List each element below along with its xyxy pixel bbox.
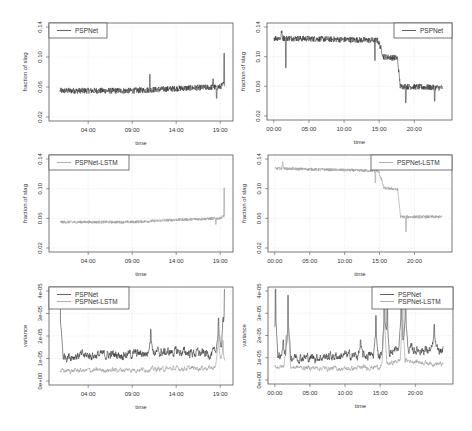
legend: PSPNetPSPNet-LSTM: [372, 287, 453, 309]
y-tick-label: 0.14: [256, 153, 262, 165]
legend: PSPNetPSPNet-LSTM: [49, 287, 129, 309]
y-tick-label: 0.02: [255, 110, 261, 122]
x-tick-label: 09:00: [125, 391, 141, 397]
y-tick-label: 3e-05: [37, 305, 43, 321]
y-axis-label: variance: [22, 324, 28, 347]
y-tick-label: 0.02: [37, 242, 43, 254]
x-tick-label: 00:00: [266, 126, 282, 132]
legend-label: PSPNet-LSTM: [75, 298, 118, 305]
legend-label: PSPNet-LSTM: [75, 159, 118, 166]
y-axis-label: fraction of slag: [241, 184, 247, 223]
y-tick-label: 2e-05: [37, 328, 43, 344]
x-tick-label: 10:00: [337, 126, 353, 132]
x-tick-label: 15:00: [373, 390, 389, 396]
x-tick-label: 05:00: [302, 258, 318, 264]
legend: PSPNet: [49, 23, 107, 38]
y-tick-label: 0.10: [256, 182, 262, 194]
x-tick-label: 05:00: [302, 390, 318, 396]
y-tick-label: 4e-05: [37, 283, 43, 299]
y-tick-label: 0e+00: [37, 372, 43, 390]
legend-label: PSPNet: [420, 27, 443, 34]
x-tick-label: 05:00: [301, 126, 317, 132]
legend: PSPNet-LSTM: [371, 155, 452, 170]
y-tick-label: 0e+00: [256, 371, 262, 389]
figure: 04:0009:0014:0019:000.020.060.100.14time…: [0, 0, 472, 431]
legend-label: PSPNet-LSTM: [397, 159, 440, 166]
panel-p4: 00:0005:0010:0015:0020:000.020.060.100.1…: [241, 153, 452, 277]
x-tick-label: 15:00: [372, 126, 388, 132]
x-tick-label: 19:00: [213, 258, 229, 264]
legend-label: PSPNet: [75, 291, 98, 298]
x-tick-label: 20:00: [408, 390, 424, 396]
series-line-pspnet: [60, 53, 225, 98]
x-tick-label: 09:00: [125, 258, 141, 264]
y-tick-label: 3e-05: [256, 305, 262, 321]
y-tick-label: 0.06: [256, 212, 262, 224]
y-tick-label: 2e-05: [256, 327, 262, 343]
x-tick-label: 20:00: [407, 126, 423, 132]
x-tick-label: 00:00: [267, 258, 283, 264]
x-tick-label: 10:00: [338, 390, 354, 396]
legend-label: PSPNet: [398, 291, 421, 298]
series-line-pspnet-lstm: [60, 188, 225, 224]
legend-label: PSPNet-LSTM: [398, 298, 441, 305]
x-tick-label: 15:00: [372, 258, 388, 264]
panel-p3: 04:0009:0014:0019:000.020.060.100.14time…: [22, 153, 233, 277]
panel-p1: 04:0009:0014:0019:000.020.060.100.14time…: [22, 21, 233, 146]
y-tick-label: 0.06: [255, 80, 261, 92]
x-tick-label: 04:00: [81, 127, 97, 133]
legend-label: PSPNet: [75, 27, 98, 34]
y-tick-label: 0.02: [37, 111, 43, 123]
y-axis-label: fraction of slag: [22, 184, 28, 223]
y-tick-label: 0.06: [37, 212, 43, 224]
y-tick-label: 0.14: [37, 21, 43, 33]
x-tick-label: 14:00: [169, 391, 185, 397]
legend: PSPNet-LSTM: [49, 155, 129, 170]
y-tick-label: 0.10: [37, 51, 43, 63]
series-line-pspnet-lstm: [60, 327, 225, 374]
y-tick-label: 4e-05: [256, 283, 262, 299]
y-axis-label: fraction of slag: [22, 52, 28, 91]
x-tick-label: 19:00: [213, 127, 229, 133]
x-tick-label: 04:00: [81, 258, 97, 264]
panel-p5: 04:0009:0014:0019:000e+001e-052e-053e-05…: [22, 283, 233, 410]
x-axis-label: time: [135, 404, 147, 410]
y-tick-label: 0.06: [37, 81, 43, 93]
y-tick-label: 0.10: [255, 50, 261, 62]
y-axis-label: variance: [241, 324, 247, 347]
series-line-pspnet-lstm: [275, 162, 443, 232]
x-tick-label: 14:00: [169, 127, 185, 133]
panel-p6: 00:0005:0010:0015:0020:000e+001e-052e-05…: [241, 283, 453, 409]
y-tick-label: 0.14: [255, 21, 261, 33]
x-axis-label: time: [135, 271, 147, 277]
x-axis-label: time: [354, 271, 366, 277]
panel-p2: 00:0005:0010:0015:0020:000.020.060.100.1…: [240, 21, 452, 145]
x-tick-label: 19:00: [213, 391, 229, 397]
x-axis-label: time: [135, 140, 147, 146]
x-tick-label: 20:00: [407, 258, 423, 264]
x-tick-label: 09:00: [125, 127, 141, 133]
x-tick-label: 04:00: [81, 391, 97, 397]
x-tick-label: 10:00: [337, 258, 353, 264]
y-tick-label: 1e-05: [256, 349, 262, 365]
y-tick-label: 0.14: [37, 153, 43, 165]
x-axis-label: time: [354, 139, 366, 145]
y-tick-label: 0.10: [37, 182, 43, 194]
legend: PSPNet: [394, 23, 452, 38]
x-tick-label: 14:00: [169, 258, 185, 264]
x-tick-label: 00:00: [267, 390, 283, 396]
y-axis-label: fraction of slag: [240, 52, 246, 91]
y-tick-label: 0.02: [256, 242, 262, 254]
x-axis-label: time: [355, 403, 367, 409]
y-tick-label: 1e-05: [37, 350, 43, 366]
series-line-pspnet: [274, 31, 443, 103]
